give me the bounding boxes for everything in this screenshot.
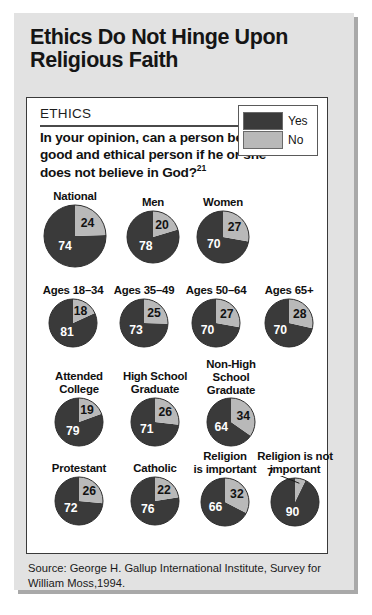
pie-chart: 7028 [263, 297, 315, 349]
pie-cell: Protestant7226 [41, 462, 117, 531]
pie-value-no: 27 [220, 308, 234, 320]
pie-value-no: 19 [80, 404, 94, 416]
pie-label: Non-High School Graduate [193, 358, 269, 396]
pie-chart: 6434 [205, 396, 257, 448]
source-note: Source: George H. Gallup International I… [28, 561, 328, 590]
pie-value-yes: 76 [141, 503, 155, 515]
pie-value-no: 27 [228, 221, 242, 233]
pie-label: Men [115, 196, 191, 209]
pie-chart: 7027 [190, 297, 242, 349]
pie-cell: National7424 [37, 190, 113, 273]
pie-value-no: 18 [74, 305, 88, 317]
pie-chart: 7126 [129, 396, 181, 448]
pie-value-yes: 66 [209, 501, 223, 513]
pie-value-no: 26 [159, 406, 173, 418]
pie-label: Religion is important [187, 450, 263, 476]
pie-chart: 907 [269, 476, 321, 528]
pie-value-yes: 74 [58, 240, 72, 252]
pie-value-no: 20 [155, 219, 169, 231]
pie-label: Women [185, 196, 261, 209]
pie-cell: Religion is important6632 [187, 450, 263, 532]
pie-value-yes: 70 [274, 324, 288, 336]
pie-value-yes: 90 [286, 506, 300, 518]
pie-value-no: 25 [147, 307, 161, 319]
pie-cell: Women7027 [185, 196, 261, 269]
pie-chart: 8118 [47, 297, 99, 349]
pie-value-no: 7 [267, 467, 273, 478]
pie-cell: Attended College7919 [41, 370, 117, 452]
pie-chart: 7027 [195, 209, 251, 265]
pie-value-yes: 72 [64, 502, 78, 514]
ethics-card: ETHICS In your opinion, can a person be … [26, 97, 328, 554]
pie-chart: 7325 [118, 297, 170, 349]
pie-value-no: 22 [157, 484, 171, 496]
pie-label: High School Graduate [117, 370, 193, 396]
pie-cell: Ages 18–348118 [35, 284, 111, 353]
pie-cell: Non-High School Graduate6434 [193, 358, 269, 452]
pie-cell: Religion is not important907 [257, 450, 333, 532]
pie-cell: Men7820 [115, 196, 191, 269]
pie-cell: Catholic7622 [117, 462, 193, 531]
pie-label: Ages 65+ [251, 284, 327, 297]
pie-label: Catholic [117, 462, 193, 475]
pie-value-yes: 73 [129, 324, 143, 336]
pie-value-yes: 64 [214, 421, 228, 433]
pie-label: Ages 35–49 [106, 284, 182, 297]
page-title: Ethics Do Not Hinge Upon Religious Faith [14, 13, 354, 72]
pie-value-yes: 70 [207, 238, 221, 250]
pie-chart: 7820 [125, 209, 181, 265]
pie-value-yes: 78 [139, 240, 153, 252]
pie-label: Protestant [41, 462, 117, 475]
pie-value-yes: 79 [66, 424, 80, 436]
pie-value-no: 26 [83, 485, 97, 497]
poster-page: Ethics Do Not Hinge Upon Religious Faith… [14, 13, 354, 590]
pie-value-no: 24 [81, 217, 95, 229]
pie-label: Ages 50–64 [178, 284, 254, 297]
pie-chart: 7226 [53, 475, 105, 527]
pie-cell: Ages 35–497325 [106, 284, 182, 353]
pie-cell: Ages 65+7028 [251, 284, 327, 353]
pie-label: Attended College [41, 370, 117, 396]
pie-value-yes: 71 [140, 423, 154, 435]
pie-chart: 7622 [129, 475, 181, 527]
pie-value-no: 32 [230, 488, 244, 500]
pie-chart: 7424 [42, 203, 108, 269]
pie-value-yes: 70 [201, 324, 215, 336]
pie-chart: 6632 [199, 476, 251, 528]
pie-value-yes: 81 [60, 326, 74, 338]
pie-value-no: 28 [293, 308, 307, 320]
pie-label: National [37, 190, 113, 203]
pie-chart-grid: National7424Men7820Women7027Ages 18–3481… [27, 98, 327, 553]
pie-value-no: 34 [237, 410, 251, 422]
pie-cell: Ages 50–647027 [178, 284, 254, 353]
pie-label: Ages 18–34 [35, 284, 111, 297]
pie-cell: High School Graduate7126 [117, 370, 193, 452]
pie-chart: 7919 [53, 396, 105, 448]
